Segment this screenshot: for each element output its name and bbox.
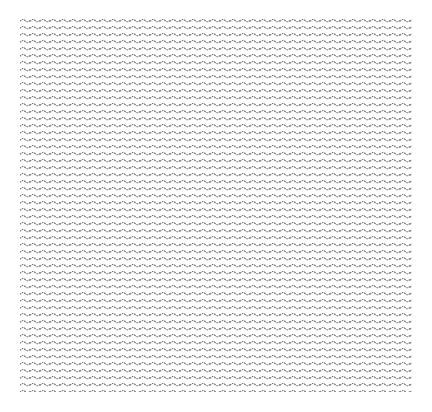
wavy-pattern-graphic [20, 17, 412, 392]
pattern-fill [20, 17, 412, 392]
wavy-texture-area [20, 17, 412, 392]
